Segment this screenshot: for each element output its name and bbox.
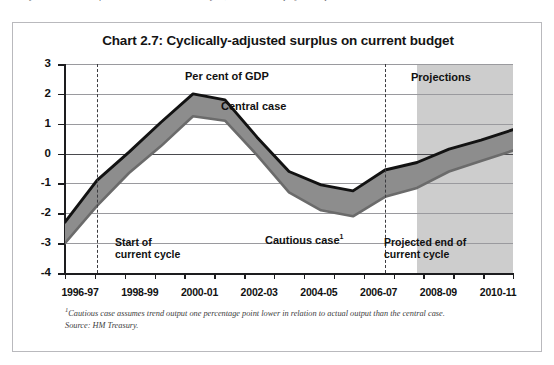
- y-tick-label-minus-4: -4: [25, 266, 51, 278]
- chart-figure: Chart 2.7: Cyclically-adjusted surplus o…: [12, 22, 542, 352]
- y-tick-minus-3: [58, 243, 65, 245]
- x-tick-9: [334, 273, 335, 279]
- annotation-cautious-case-label: Cautious case: [265, 234, 340, 246]
- x-tick-0: [65, 273, 66, 279]
- footnote-line-1: 1Cautious case assumes trend output one …: [65, 305, 525, 320]
- x-tick-7: [274, 273, 275, 279]
- x-tick-1: [95, 273, 96, 279]
- x-tick-6: [244, 273, 245, 279]
- footnote-line-1-text: Cautious case assumes trend output one p…: [68, 309, 445, 318]
- x-tick-label-1998-99: 1998-99: [110, 286, 170, 298]
- annotation-cautious-case: Cautious case1: [265, 233, 344, 247]
- band-between-series: [65, 94, 513, 243]
- y-tick-minus-2: [58, 213, 65, 215]
- y-tick-2: [58, 94, 65, 96]
- y-tick-label-minus-2: -2: [25, 206, 51, 218]
- y-tick-label-minus-3: -3: [25, 236, 51, 248]
- x-tick-2: [125, 273, 126, 279]
- x-tick-13: [453, 273, 454, 279]
- cycle-marker-start: [97, 64, 98, 273]
- x-tick-3: [155, 273, 156, 279]
- y-tick-label-1: 1: [25, 117, 51, 129]
- y-tick-3: [58, 64, 65, 66]
- annotation-units: Per cent of GDP: [185, 70, 269, 83]
- annotation-cautious-case-marker: 1: [340, 233, 344, 240]
- annotation-projected-end-line2: current cycle: [384, 248, 466, 260]
- page-top-cut-text: y the Government's fiscal rules over the…: [0, 0, 554, 12]
- x-tick-label-2002-03: 2002-03: [229, 286, 289, 298]
- x-tick-4: [184, 273, 185, 279]
- x-tick-11: [394, 273, 395, 279]
- x-tick-8: [304, 273, 305, 279]
- x-tick-label-2006-07: 2006-07: [349, 286, 409, 298]
- annotation-projected-end-line1: Projected end of: [384, 236, 466, 248]
- x-tick-5: [214, 273, 215, 279]
- annotation-start-of-cycle-line1: Start of: [115, 236, 180, 248]
- y-tick-label-2: 2: [25, 87, 51, 99]
- plot-area: 3 2 1 0 -1 -2 -3 -4 1996-97 1998-99 2000…: [65, 64, 513, 273]
- x-tick-label-2004-05: 2004-05: [289, 286, 349, 298]
- y-tick-label-0: 0: [25, 147, 51, 159]
- y-tick-1: [58, 124, 65, 126]
- chart-footnote: 1Cautious case assumes trend output one …: [65, 305, 525, 332]
- y-tick-minus-1: [58, 183, 65, 185]
- x-tick-15: [513, 273, 514, 279]
- annotation-central-case: Central case: [221, 100, 286, 113]
- chart-title: Chart 2.7: Cyclically-adjusted surplus o…: [13, 33, 543, 48]
- y-tick-0: [58, 154, 65, 156]
- y-tick-label-3: 3: [25, 57, 51, 69]
- annotation-projections: Projections: [411, 71, 471, 84]
- x-axis: [64, 273, 514, 275]
- footnote-line-2: Source: HM Treasury.: [65, 320, 525, 332]
- x-tick-12: [423, 273, 424, 279]
- x-tick-label-2000-01: 2000-01: [169, 286, 229, 298]
- x-tick-10: [364, 273, 365, 279]
- annotation-start-of-cycle: Start of current cycle: [115, 236, 180, 261]
- annotation-start-of-cycle-line2: current cycle: [115, 248, 180, 260]
- x-tick-label-2010-11: 2010-11: [468, 286, 528, 298]
- y-tick-label-minus-1: -1: [25, 176, 51, 188]
- x-tick-14: [483, 273, 484, 279]
- x-tick-label-1996-97: 1996-97: [50, 286, 110, 298]
- page-top-cut-text-content: y the Government's fiscal rules over the…: [30, 0, 530, 1]
- annotation-projected-end-of-cycle: Projected end of current cycle: [384, 236, 466, 261]
- y-tick-minus-4: [58, 273, 65, 275]
- x-tick-label-2008-09: 2008-09: [408, 286, 468, 298]
